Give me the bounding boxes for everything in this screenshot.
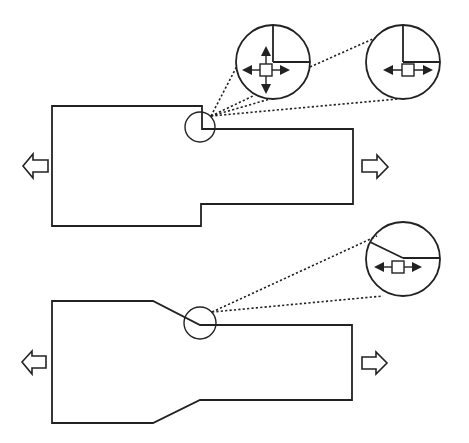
top-notch-magnifier: [185, 112, 215, 142]
diagram-canvas: [0, 0, 469, 443]
top-right-load-arrow-icon: [362, 155, 388, 178]
arrow-left-icon: [383, 65, 393, 75]
arrow-right-icon: [280, 65, 290, 75]
arrow-up-icon: [261, 46, 271, 56]
bottom-panel: [22, 222, 440, 423]
arrow-left-icon: [374, 262, 384, 272]
bottom-leader-lines: [212, 236, 383, 312]
bottom-detail-uniaxial: [366, 222, 440, 296]
arrow-left-icon: [242, 65, 252, 75]
top-panel: [23, 25, 440, 226]
bottom-transition-magnifier: [184, 307, 216, 339]
top-left-load-arrow-icon: [23, 154, 48, 178]
arrow-right-icon: [423, 65, 433, 75]
top-detail-biaxial: [236, 25, 310, 99]
stress-element-square: [402, 64, 414, 76]
bottom-right-load-arrow-icon: [362, 352, 387, 374]
top-detail-uniaxial: [366, 25, 440, 99]
bottom-left-load-arrow-icon: [22, 351, 46, 374]
arrow-right-icon: [412, 262, 422, 272]
stress-element-square: [392, 261, 404, 273]
arrow-down-icon: [261, 84, 271, 94]
bottom-specimen-outline: [52, 301, 352, 423]
stress-element-square: [260, 64, 272, 76]
top-specimen-outline: [52, 106, 353, 226]
